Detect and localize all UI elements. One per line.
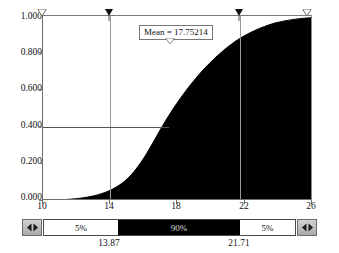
y-tick-label-0200: 0.200 (0, 156, 42, 166)
marker-stem-lower (109, 15, 110, 21)
y-tick-label-0600: 0.600 (0, 83, 42, 93)
marker-hollow-left[interactable] (38, 9, 47, 16)
segment-right-tail[interactable]: 5% (240, 220, 295, 235)
lower-bound-label: 13.87 (98, 238, 119, 248)
segment-central[interactable]: 90% (118, 220, 240, 235)
left-handle[interactable] (22, 219, 42, 236)
right-handle[interactable] (297, 219, 317, 236)
y-tick-label-0400: 0.400 (0, 120, 42, 130)
chart-area: 1.000 0.800 0.600 0.400 0.200 0.000 (0, 0, 339, 212)
x-tick-label-18: 18 (171, 201, 181, 211)
x-tick-label-26: 26 (306, 201, 316, 211)
left-right-arrows-icon (301, 223, 314, 232)
percentile-slider[interactable]: 5% 90% 5% (22, 219, 317, 237)
segment-left-tail[interactable]: 5% (44, 220, 118, 235)
marker-stem-upper (239, 15, 240, 21)
x-tick-label-10: 10 (37, 201, 47, 211)
percentile-track[interactable]: 5% 90% 5% (43, 219, 296, 236)
x-tick-label-22: 22 (239, 201, 249, 211)
vertical-delimiter-upper[interactable] (240, 16, 241, 200)
horizontal-probability-line[interactable] (43, 127, 169, 128)
x-tick-label-14: 14 (104, 201, 114, 211)
plot-canvas[interactable] (42, 16, 311, 200)
vertical-delimiter-lower[interactable] (110, 16, 111, 200)
y-tick-label-0000: 0.000 (0, 192, 42, 202)
plot-right-border (311, 15, 312, 201)
left-right-arrows-icon (26, 223, 39, 232)
cdf-curve (43, 16, 311, 200)
upper-bound-label: 21.71 (228, 238, 249, 248)
y-tick-label-0800: 0.800 (0, 47, 42, 57)
mean-annotation[interactable]: Mean = 17.75214 (139, 25, 213, 40)
mean-pointer-icon (166, 38, 175, 44)
marker-hollow-right[interactable] (303, 9, 312, 16)
cumulative-distribution-window: 1.000 0.800 0.600 0.400 0.200 0.000 (0, 0, 339, 253)
y-tick-label-1000: 1.000 (0, 11, 42, 21)
